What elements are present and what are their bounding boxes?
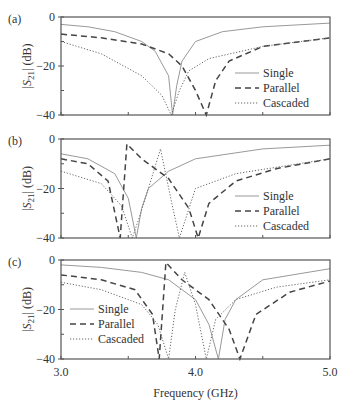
y-axis-label: |S21| (dB)	[20, 44, 36, 89]
y-tick-label: −40	[36, 352, 55, 366]
y-tick-label: −40	[36, 108, 55, 122]
y-axis-label: |S21| (dB)	[20, 166, 36, 211]
x-tick-label: 5.0	[323, 365, 338, 379]
panel-label: (c)	[8, 255, 21, 269]
y-tick-label: −40	[36, 231, 55, 245]
y-tick-label: −20	[36, 59, 55, 73]
y-axis-label: |S21| (dB)	[20, 287, 36, 332]
legend-label: Cascaded	[98, 332, 144, 346]
legend-label: Cascaded	[263, 96, 309, 110]
legend-label: Single	[263, 66, 294, 80]
panel-b: 0−20−40(b)|S21| (dB)SingleParallelCascad…	[8, 132, 330, 245]
legend-label: Parallel	[263, 81, 300, 95]
panel-label: (a)	[8, 12, 21, 26]
y-tick-label: −20	[36, 303, 55, 317]
legend-label: Parallel	[263, 204, 300, 218]
legend-label: Parallel	[98, 317, 135, 331]
y-tick-label: 0	[49, 253, 55, 267]
legend-label: Cascaded	[263, 219, 309, 233]
x-tick-label: 3.0	[54, 365, 69, 379]
legend-label: Single	[98, 302, 129, 316]
legend-label: Single	[263, 189, 294, 203]
panel-a: 0−20−40(a)|S21| (dB)SingleParallelCascad…	[8, 10, 330, 122]
panel-c: 0−20−40(c)|S21| (dB)SingleParallelCascad…	[8, 253, 330, 366]
y-tick-label: −20	[36, 182, 55, 196]
x-axis-label: Frequency (GHz)	[153, 386, 237, 400]
figure: 0−20−40(a)|S21| (dB)SingleParallelCascad…	[0, 0, 348, 406]
y-tick-label: 0	[49, 10, 55, 24]
panel-label: (b)	[8, 134, 22, 148]
y-tick-label: 0	[49, 132, 55, 146]
x-tick-label: 4.0	[188, 365, 203, 379]
